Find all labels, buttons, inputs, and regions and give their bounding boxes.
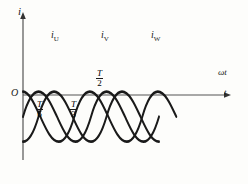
tick-label-t-over-2: T 2: [96, 69, 103, 89]
tick-label-t-over-6: T 6: [36, 100, 43, 120]
i-v-label: iV: [101, 30, 109, 43]
tick-label-t-over-3: T 3: [70, 100, 77, 120]
curve-iU: [23, 92, 159, 142]
i-w-subscript: W: [154, 35, 161, 43]
x-axis-label-t: t: [224, 88, 227, 97]
i-w-label: iW: [151, 30, 160, 43]
three-phase-waveform-figure: [0, 0, 248, 184]
t-over-3-denominator: 3: [70, 110, 77, 119]
i-u-label: iU: [51, 30, 59, 43]
t-over-6-denominator: 6: [36, 110, 43, 119]
t-over-2-denominator: 2: [96, 79, 103, 88]
i-v-subscript: V: [104, 35, 109, 43]
y-axis-label: i: [18, 6, 21, 17]
i-u-subscript: U: [54, 35, 59, 43]
origin-label: O: [11, 88, 18, 98]
x-axis-label-omega-t: ωt: [218, 68, 227, 77]
